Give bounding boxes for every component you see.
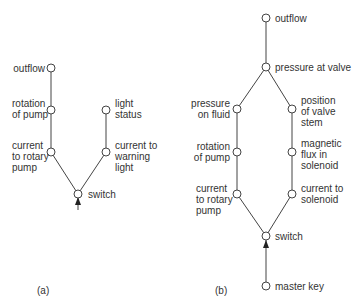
node-a-light-status bbox=[102, 106, 110, 114]
node-a-rotation-of-pump bbox=[47, 106, 55, 114]
label-b-pressure-on-fluid: pressure on fluid bbox=[191, 98, 230, 120]
node-b-rotation-of-pump bbox=[233, 148, 241, 156]
label-b-master-key: master key bbox=[275, 281, 324, 292]
caption-a: (a) bbox=[37, 285, 49, 296]
node-b-position-of-valve-stem bbox=[288, 105, 296, 113]
label-a-switch: switch bbox=[88, 189, 116, 200]
label-b-magnetic-flux-in-solenoid: magnetic flux in solenoid bbox=[301, 138, 342, 171]
label-b-current-to-rotary-pump: current to rotary pump bbox=[196, 183, 233, 216]
node-b-current-to-solenoid bbox=[288, 190, 296, 198]
node-b-pressure-on-fluid bbox=[233, 105, 241, 113]
node-a-switch bbox=[74, 190, 82, 198]
label-a-current-to-warning-light: current to warning light bbox=[115, 140, 157, 173]
label-b-pressure-at-valve: pressure at valve bbox=[275, 62, 351, 73]
node-b-magnetic-flux bbox=[288, 148, 296, 156]
label-a-outflow: outflow bbox=[13, 63, 45, 74]
node-b-switch bbox=[262, 232, 270, 240]
label-b-rotation-of-pump: rotation of pump bbox=[194, 141, 230, 163]
label-b-outflow: outflow bbox=[275, 13, 307, 24]
node-b-current-to-rotary-pump bbox=[233, 190, 241, 198]
label-a-light-status: light status bbox=[115, 98, 142, 120]
node-b-outflow bbox=[262, 14, 270, 22]
node-a-outflow bbox=[47, 64, 55, 72]
label-a-current-to-rotary-pump: current to rotary pump bbox=[12, 140, 49, 173]
node-b-master-key bbox=[262, 282, 270, 290]
label-b-switch: switch bbox=[275, 231, 303, 242]
arrow-up-icon bbox=[263, 240, 269, 248]
node-a-current-to-warning-light bbox=[102, 148, 110, 156]
label-a-rotation-of-pump: rotation of pump bbox=[12, 98, 48, 120]
label-b-position-of-valve-stem: position of valve stem bbox=[301, 95, 335, 128]
caption-b: (b) bbox=[215, 285, 227, 296]
node-b-pressure-at-valve bbox=[262, 63, 270, 71]
label-b-current-to-solenoid: current to solenoid bbox=[301, 183, 343, 205]
